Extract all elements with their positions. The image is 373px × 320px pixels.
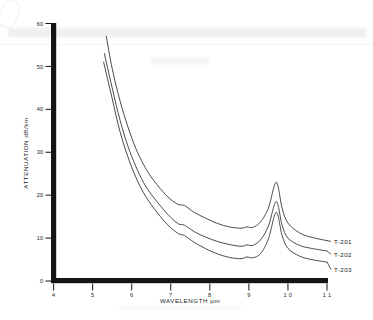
y-tick-label: 40 xyxy=(37,106,44,112)
x-tick-label: 6 xyxy=(130,292,133,298)
y-axis-title: ATTENUATION dB/km xyxy=(22,117,29,188)
x-axis-title: WAVELENGTH µm xyxy=(160,297,220,304)
legend-label-t-203: T-203 xyxy=(334,266,352,273)
attenuation-chart: 0102030405060 4567891 01 1 T-201T-202T-2… xyxy=(0,0,373,320)
legend-label-t-202: T-202 xyxy=(334,251,352,258)
leader-line-t-203 xyxy=(327,262,331,269)
y-tick-label: 0 xyxy=(40,278,43,284)
x-tick-label: 4 xyxy=(52,292,55,298)
curve-t-203 xyxy=(104,62,327,262)
x-tick-label: 5 xyxy=(91,292,94,298)
legend: T-201T-202T-203 xyxy=(334,238,352,273)
x-tick-label: 1 0 xyxy=(284,292,293,298)
y-axis-spine xyxy=(51,23,56,283)
y-tick-label: 20 xyxy=(37,192,44,198)
x-tick-label: 9 xyxy=(247,292,250,298)
y-tick-label: 50 xyxy=(37,64,44,70)
data-curves xyxy=(104,36,327,262)
x-axis-spine xyxy=(51,278,328,283)
x-axis-ticks: 4567891 01 1 xyxy=(52,284,331,298)
chart-canvas: 0102030405060 4567891 01 1 T-201T-202T-2… xyxy=(0,0,373,320)
leader-line-t-202 xyxy=(327,251,331,254)
x-tick-label: 1 1 xyxy=(323,292,332,298)
y-tick-label: 30 xyxy=(37,149,44,155)
leader-line-t-201 xyxy=(327,241,331,242)
legend-label-t-201: T-201 xyxy=(334,238,352,245)
legend-leader-lines xyxy=(327,241,331,270)
y-tick-label: 60 xyxy=(37,21,44,27)
curve-t-201 xyxy=(106,36,327,240)
y-tick-label: 10 xyxy=(37,235,44,241)
y-axis-ticks: 0102030405060 xyxy=(37,21,52,285)
